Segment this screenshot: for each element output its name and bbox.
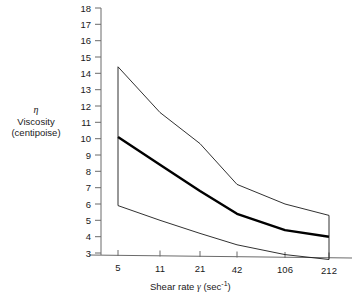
viscosity-shear-rate-chart: 18 17 16 15 14 13 12 11 10 9 8 7 6 5 4 3… (0, 0, 358, 301)
x-tick-label: 11 (155, 263, 165, 274)
y-tick-label: 15 (80, 52, 91, 63)
y-axis-label: η Viscosity (centipoise) (2, 104, 70, 139)
y-tick-label: 9 (86, 150, 91, 161)
x-axis-label: Shear rate γ (sec-1) (150, 281, 231, 292)
y-tick-label: 13 (80, 84, 91, 95)
y-axis-label-symbol: η (2, 104, 70, 116)
y-axis-ticks (95, 8, 101, 253)
y-tick-label: 12 (80, 101, 91, 112)
data-curves-group (118, 67, 329, 260)
series-line (118, 67, 329, 216)
x-tick-label: 5 (115, 262, 120, 273)
y-tick-label: 10 (80, 133, 91, 144)
y-tick-label: 8 (86, 166, 91, 177)
y-tick-label: 3 (86, 248, 91, 259)
series-line (118, 137, 329, 237)
x-tick-label: 106 (277, 264, 293, 275)
y-tick-label: 5 (86, 215, 91, 226)
x-tick-label: 21 (195, 263, 206, 274)
y-tick-label: 17 (80, 19, 91, 30)
y-tick-label: 6 (86, 199, 91, 210)
y-tick-label: 18 (80, 3, 91, 14)
chart-plot-area: 18 17 16 15 14 13 12 11 10 9 8 7 6 5 4 3… (0, 0, 358, 301)
y-tick-label: 14 (80, 68, 91, 79)
y-tick-label: 4 (86, 231, 91, 242)
y-axis-label-name: Viscosity (17, 116, 54, 127)
x-tick-label: 42 (232, 264, 243, 275)
y-tick-label: 16 (80, 35, 91, 46)
x-tick-label: 212 (321, 265, 337, 276)
y-tick-label: 7 (86, 182, 91, 193)
x-axis-label-text: Shear rate γ (sec-1) (150, 281, 231, 292)
y-tick-label: 11 (81, 117, 91, 128)
y-axis-label-units: (centipoise) (11, 127, 60, 138)
